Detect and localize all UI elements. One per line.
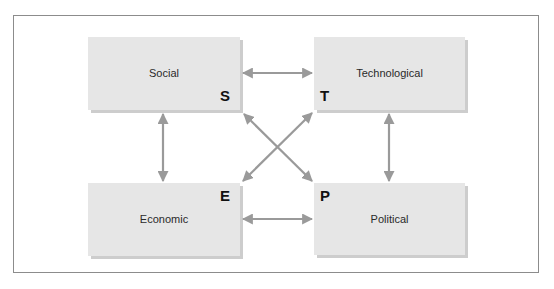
arrows-layer (0, 0, 554, 289)
